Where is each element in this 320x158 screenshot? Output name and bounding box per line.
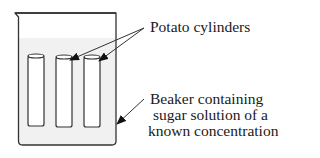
beaker-label: Beaker containing sugar solution of a kn… bbox=[150, 91, 278, 139]
beaker-label-line-1: Beaker containing bbox=[150, 91, 278, 107]
potato-cylinders-label: Potato cylinders bbox=[150, 19, 250, 35]
potato-cylinder-2 bbox=[56, 55, 72, 127]
beaker-label-line-3: known concentration bbox=[148, 123, 278, 139]
potato-cylinder-3 bbox=[84, 55, 100, 127]
arrow-to-beaker bbox=[117, 99, 144, 124]
beaker-label-line-2: sugar solution of a bbox=[150, 107, 278, 123]
potato-cylinder-1 bbox=[28, 54, 44, 126]
